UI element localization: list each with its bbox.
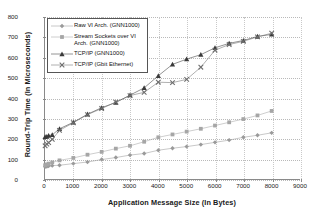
y-tick-mark <box>43 58 46 59</box>
legend-label: Stream Sockets over VI Arch. (GNN1000) <box>73 33 145 46</box>
data-point-diamond <box>142 151 146 155</box>
x-tick-mark <box>273 179 274 182</box>
x-tick-mark <box>159 179 160 182</box>
data-point-triangle <box>44 134 49 139</box>
gridline-vertical <box>301 17 302 179</box>
gridline-horizontal <box>45 78 300 79</box>
chart-legend: Raw VI Arch. (GNN1000) Stream Sockets ov… <box>47 18 148 73</box>
legend-label: TCP/IP (Gbit Ethernet) <box>73 61 133 68</box>
y-tick-label: 700 <box>0 34 18 40</box>
gridline-vertical <box>244 17 245 179</box>
legend-marker-square-icon <box>51 33 73 41</box>
data-point-diamond <box>170 146 174 150</box>
x-axis-title: Application Message Size (In Bytes) <box>44 198 300 207</box>
data-point-triangle <box>57 126 62 131</box>
y-tick-label: 300 <box>0 116 18 122</box>
y-tick-mark <box>43 17 46 18</box>
data-point-x <box>199 65 204 70</box>
x-tick-mark <box>187 179 188 182</box>
data-point-diamond <box>50 163 54 167</box>
legend-item-tcpip-gnn1000: TCP/IP (GNN1000) <box>51 50 145 58</box>
data-point-square <box>47 162 51 166</box>
y-tick-label: 800 <box>0 14 18 20</box>
data-point-triangle <box>142 85 147 90</box>
gridline-horizontal <box>45 119 300 120</box>
data-point-x <box>85 112 90 117</box>
data-point-diamond <box>57 163 61 167</box>
data-point-x <box>45 142 50 147</box>
data-point-x <box>114 100 119 105</box>
data-point-square <box>50 161 54 165</box>
data-point-triangle <box>46 133 51 138</box>
gridline-vertical <box>216 17 217 179</box>
data-point-square <box>256 114 260 118</box>
data-point-square <box>199 127 203 131</box>
gridline-horizontal <box>45 99 300 100</box>
x-tick-mark <box>45 179 46 182</box>
data-point-triangle <box>50 132 55 137</box>
x-tick-mark <box>130 179 131 182</box>
data-point-triangle <box>227 41 232 46</box>
gridline-vertical <box>187 17 188 179</box>
y-tick-label: 100 <box>0 157 18 163</box>
x-tick-mark <box>216 179 217 182</box>
legend-item-stream-sockets-over-vi-arch: Stream Sockets over VI Arch. (GNN1000) <box>51 33 145 46</box>
x-tick-mark <box>244 179 245 182</box>
data-point-diamond <box>199 142 203 146</box>
data-point-triangle <box>85 112 90 117</box>
legend-marker-diamond-icon <box>51 22 73 30</box>
legend-marker-x-icon <box>51 61 73 69</box>
x-tick-mark <box>102 179 103 182</box>
gridline-horizontal <box>45 180 300 181</box>
y-tick-mark <box>43 37 46 38</box>
y-tick-mark <box>43 78 46 79</box>
y-axis-title: Round-Trip Time (In Microseconds) <box>23 20 32 170</box>
chart-figure: Round-Trip Time (In Microseconds) Applic… <box>0 0 320 219</box>
data-point-square <box>45 163 49 167</box>
data-point-diamond <box>60 24 64 28</box>
data-point-x <box>46 140 51 145</box>
y-tick-label: 600 <box>0 55 18 61</box>
data-point-diamond <box>43 165 47 169</box>
y-tick-mark <box>43 119 46 120</box>
data-point-x <box>170 80 175 85</box>
legend-label: TCP/IP (GNN1000) <box>73 50 125 57</box>
data-point-x <box>142 90 147 95</box>
legend-label: Raw VI Arch. (GNN1000) <box>73 22 140 29</box>
y-tick-label: 400 <box>0 96 18 102</box>
data-point-triangle <box>198 52 203 57</box>
gridline-vertical <box>273 17 274 179</box>
data-point-square <box>142 140 146 144</box>
y-tick-label: 200 <box>0 136 18 142</box>
legend-item-raw-vi-arch: Raw VI Arch. (GNN1000) <box>51 22 145 30</box>
y-tick-label: 500 <box>0 75 18 81</box>
y-tick-label: 0 <box>0 177 18 183</box>
data-point-diamond <box>46 164 50 168</box>
y-tick-mark <box>43 160 46 161</box>
y-tick-mark <box>43 99 46 100</box>
data-point-diamond <box>255 133 259 137</box>
legend-item-tcpip-gbit-ethernet: TCP/IP (Gbit Ethernet) <box>51 61 145 69</box>
y-tick-mark <box>43 139 46 140</box>
gridline-vertical <box>159 17 160 179</box>
data-point-x <box>57 128 62 133</box>
data-point-triangle <box>170 62 175 67</box>
data-point-square <box>60 35 64 39</box>
data-point-triangle <box>113 100 118 105</box>
data-point-x <box>227 42 232 47</box>
x-tick-mark <box>301 179 302 182</box>
data-point-square <box>114 147 118 151</box>
data-point-square <box>86 153 90 157</box>
data-point-square <box>227 120 231 124</box>
x-tick-mark <box>73 179 74 182</box>
legend-marker-triangle-icon <box>51 50 73 58</box>
x-tick-label: 9000 <box>283 183 317 189</box>
data-point-x <box>43 144 48 149</box>
gridline-horizontal <box>45 160 300 161</box>
data-point-diamond <box>45 164 49 168</box>
data-point-square <box>43 163 47 167</box>
gridline-horizontal <box>45 139 300 140</box>
data-point-square <box>171 133 175 137</box>
